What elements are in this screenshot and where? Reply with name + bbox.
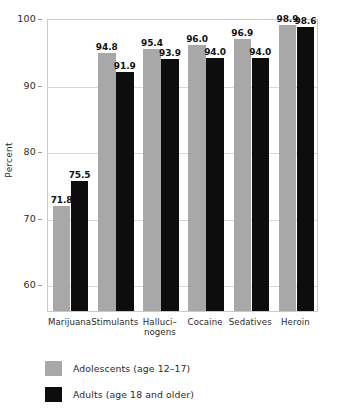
bar — [234, 39, 252, 311]
gridline — [48, 87, 317, 88]
legend-color-swatch — [45, 361, 62, 376]
x-axis-category-label-line: nogens — [128, 327, 191, 337]
bar — [53, 206, 71, 311]
gridline — [48, 286, 317, 287]
y-axis-tick-mark — [38, 19, 42, 20]
gridline — [48, 220, 317, 221]
legend-label: Adolescents (age 12–17) — [73, 363, 190, 374]
y-axis-tick-label: 60 — [24, 280, 37, 289]
legend-item: Adults (age 18 and older) — [45, 384, 295, 404]
chart-legend: Adolescents (age 12–17)Adults (age 18 an… — [45, 358, 295, 410]
y-axis-tick-label: 100 — [17, 14, 36, 23]
y-axis-tick-mark — [38, 152, 42, 153]
bar — [279, 25, 297, 311]
x-axis-category-label: Heroin — [264, 317, 327, 327]
bar-value-label: 98.6 — [292, 17, 318, 26]
y-axis-tick-label: 90 — [24, 81, 37, 90]
bar-value-label: 93.9 — [157, 49, 183, 58]
bar — [71, 181, 89, 311]
legend-label: Adults (age 18 and older) — [73, 389, 194, 400]
bar-value-label: 94.0 — [247, 48, 273, 57]
gridline — [48, 153, 317, 154]
y-axis-tick-mark — [38, 285, 42, 286]
bar — [252, 58, 270, 311]
bar-value-label: 96.9 — [229, 29, 255, 38]
bar-value-label: 94.8 — [94, 43, 120, 52]
bar — [297, 27, 315, 311]
x-axis-category-label-line: Cocaine — [188, 317, 223, 327]
bar — [143, 49, 161, 311]
plot-area: 71.875.594.891.995.493.996.094.096.994.0… — [47, 19, 318, 312]
legend-color-swatch — [45, 387, 62, 402]
bar-value-label: 75.5 — [67, 171, 93, 180]
bar — [161, 59, 179, 311]
y-axis-tick-labels: 60708090100 — [14, 19, 42, 312]
bar — [206, 58, 224, 311]
bar — [116, 72, 134, 311]
y-axis-tick-mark — [38, 86, 42, 87]
bar-chart-figure: Percent 60708090100 71.875.594.891.995.4… — [0, 0, 337, 419]
bar-value-label: 94.0 — [202, 48, 228, 57]
bar-value-label: 96.0 — [184, 35, 210, 44]
bar-value-label: 95.4 — [139, 39, 165, 48]
y-axis-tick-label: 80 — [24, 147, 37, 156]
x-axis-category-label-line: Halluci– — [143, 317, 177, 327]
y-axis-tick-label: 70 — [24, 214, 37, 223]
bar — [98, 53, 116, 311]
legend-item: Adolescents (age 12–17) — [45, 358, 295, 378]
x-axis-category-label-line: Heroin — [281, 317, 310, 327]
y-axis-title: Percent — [4, 142, 14, 177]
bar — [188, 45, 206, 311]
y-axis-tick-mark — [38, 219, 42, 220]
bar-value-label: 91.9 — [112, 62, 138, 71]
